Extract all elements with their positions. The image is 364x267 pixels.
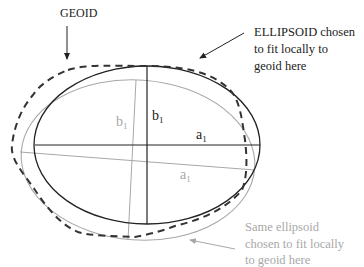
geoid-ellipsoid-diagram: GEOID ELLIPSOID chosen to fit locally to… <box>0 0 364 267</box>
geoid-callout: GEOID <box>60 6 98 59</box>
same-ellipsoid-label-line3: to geoid here <box>245 253 311 267</box>
gray-ellipsoid <box>16 72 261 248</box>
ellipsoid-label-line2: to fit locally to <box>254 42 328 56</box>
geoid-label: GEOID <box>60 6 98 20</box>
same-ellipsoid-label-line2: chosen to fit locally <box>245 237 345 251</box>
same-ellipsoid-arrow <box>190 240 235 249</box>
gray-major-axis <box>20 152 255 170</box>
ellipsoid-label-line3: geoid here <box>254 59 307 73</box>
gray-a1-label: a1 <box>180 167 191 184</box>
ellipsoid-label-line1: ELLIPSOID chosen <box>254 25 356 39</box>
same-ellipsoid-callout: Same ellipsoid chosen to fit locally to … <box>190 220 345 267</box>
same-ellipsoid-label-line1: Same ellipsoid <box>245 220 320 234</box>
ellipsoid-callout: ELLIPSOID chosen to fit locally to geoid… <box>200 25 356 73</box>
dark-ellipsoid <box>34 66 260 224</box>
dark-b1-label: b1 <box>152 108 164 125</box>
ellipsoid-arrow <box>200 33 244 58</box>
dark-a1-label: a1 <box>196 127 207 144</box>
gray-b1-label: b1 <box>116 114 128 131</box>
